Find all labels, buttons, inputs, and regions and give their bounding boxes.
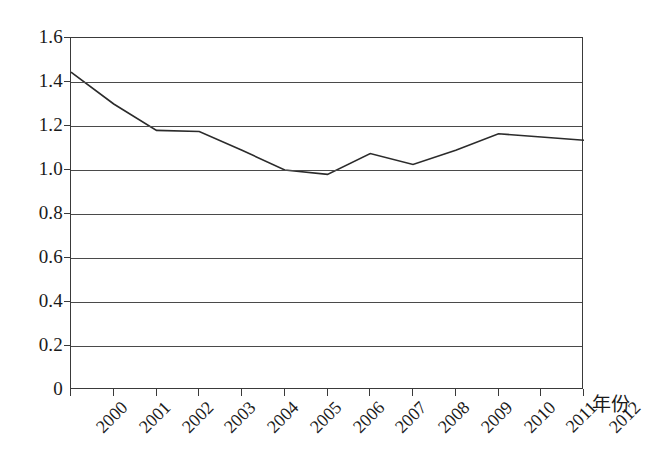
x-tick-mark (412, 389, 413, 396)
x-tick-label: 2005 (306, 398, 344, 436)
x-tick-mark (284, 389, 285, 396)
x-tick-mark (583, 389, 584, 396)
y-tick-mark (64, 81, 70, 82)
gridline (71, 126, 582, 127)
y-tick-mark (64, 125, 70, 126)
x-tick-mark (327, 389, 328, 396)
x-tick-mark (540, 389, 541, 396)
y-tick-label: 0.8 (1, 203, 63, 222)
x-axis-ticks (70, 389, 583, 397)
y-tick-label: 0 (1, 379, 63, 398)
gridline (71, 214, 582, 215)
series-polyline (71, 72, 584, 174)
x-tick-mark (156, 389, 157, 396)
x-tick-label: 2000 (93, 398, 131, 436)
gridline (71, 82, 582, 83)
plot-area (70, 37, 583, 389)
y-tick-label: 0.6 (1, 247, 63, 266)
x-tick-label: 2010 (520, 398, 558, 436)
x-tick-mark (198, 389, 199, 396)
gridline (71, 170, 582, 171)
x-tick-label: 2002 (178, 398, 216, 436)
x-tick-label: 2003 (221, 398, 259, 436)
line-chart: 00.20.40.60.81.01.21.41.6 20002001200220… (0, 0, 664, 459)
x-tick-mark (498, 389, 499, 396)
gridline (71, 258, 582, 259)
x-tick-mark (113, 389, 114, 396)
x-tick-mark (241, 389, 242, 396)
y-tick-label: 0.2 (1, 335, 63, 354)
y-tick-label: 1.2 (1, 115, 63, 134)
y-tick-mark (64, 257, 70, 258)
x-tick-mark (70, 389, 71, 396)
y-tick-mark (64, 301, 70, 302)
y-tick-label: 1.6 (1, 27, 63, 46)
y-tick-mark (64, 213, 70, 214)
x-tick-label: 2006 (349, 398, 387, 436)
gridline (71, 302, 582, 303)
y-tick-label: 1.4 (1, 71, 63, 90)
gridline (71, 346, 582, 347)
x-tick-label: 2009 (477, 398, 515, 436)
x-tick-label: 2001 (135, 398, 173, 436)
y-tick-label: 1.0 (1, 159, 63, 178)
x-tick-label: 2008 (435, 398, 473, 436)
y-axis: 00.20.40.60.81.01.21.41.6 (0, 37, 63, 389)
x-tick-mark (369, 389, 370, 396)
x-tick-label: 2007 (392, 398, 430, 436)
y-tick-mark (64, 169, 70, 170)
x-tick-label: 2004 (264, 398, 302, 436)
y-tick-label: 0.4 (1, 291, 63, 310)
y-tick-mark (64, 345, 70, 346)
y-tick-mark (64, 37, 70, 38)
x-tick-mark (455, 389, 456, 396)
x-axis-title: 年份 (592, 394, 630, 414)
